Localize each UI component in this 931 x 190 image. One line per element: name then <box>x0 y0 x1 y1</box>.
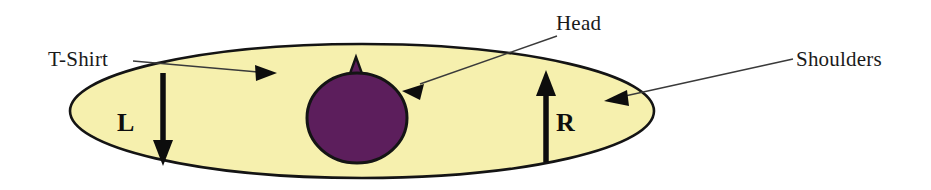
body-orientation-diagram: T-Shirt Head Shoulders L R <box>0 0 931 190</box>
head-ellipse <box>307 73 407 163</box>
label-shoulders: Shoulders <box>796 47 882 71</box>
marker-left: L <box>117 108 134 137</box>
label-tshirt: T-Shirt <box>48 47 108 71</box>
marker-right: R <box>556 108 575 137</box>
diagram-canvas: T-Shirt Head Shoulders L R <box>0 0 931 190</box>
label-head: Head <box>556 11 601 35</box>
